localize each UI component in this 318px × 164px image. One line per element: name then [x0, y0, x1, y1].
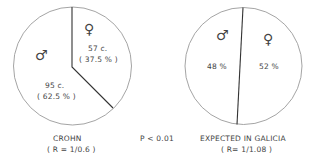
female-percent-label: 52 % — [259, 62, 279, 71]
female-percent-label: ( 37.5 % ) — [79, 55, 118, 64]
male-symbol-icon: ♂ — [216, 28, 229, 42]
female-count-label: 57 c. — [88, 44, 107, 53]
galicia-title: EXPECTED IN GALICIA — [200, 134, 286, 143]
male-count-label: 95 c. — [45, 81, 64, 90]
crohn-ratio: ( R = 1/0.6 ) — [47, 145, 96, 154]
crohn-pie — [14, 7, 132, 125]
male-percent-label: 48 % — [207, 62, 227, 71]
galicia-pie — [185, 8, 302, 125]
female-symbol-icon: ♀ — [263, 32, 273, 46]
female-symbol-icon: ♀ — [84, 22, 94, 36]
male-percent-label: ( 62.5 % ) — [37, 92, 76, 101]
p-value-annotation: P < 0.01 — [140, 134, 174, 143]
male-symbol-icon: ♂ — [35, 48, 48, 62]
crohn-title: CROHN — [53, 134, 82, 143]
galicia-ratio: ( R= 1/1.08 ) — [221, 145, 272, 154]
